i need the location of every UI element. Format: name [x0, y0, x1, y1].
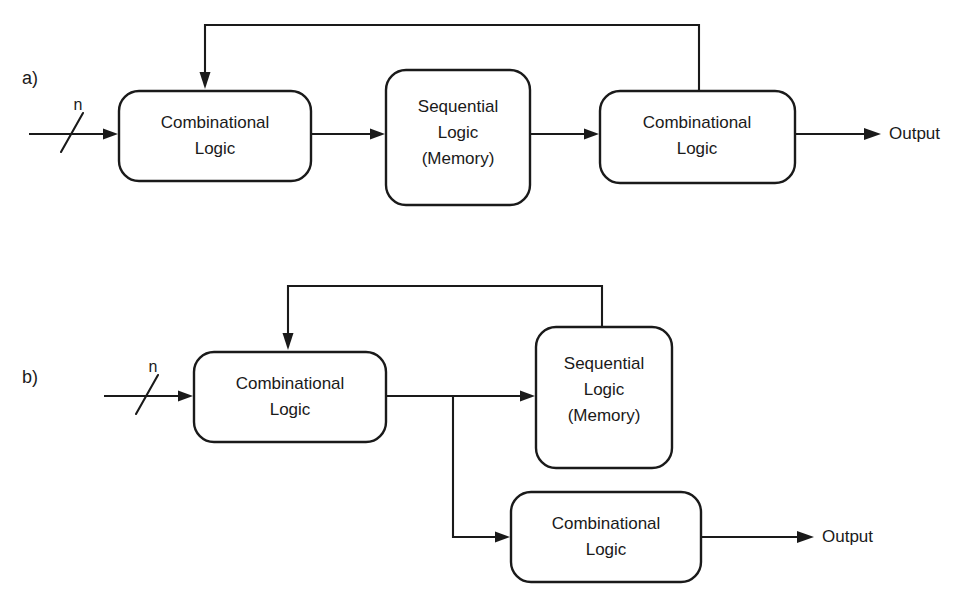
panel-a-comb2-input-arrowhead — [584, 129, 599, 140]
block-b-combinational-logic-1-line1: Combinational — [236, 374, 345, 393]
panel-a-label: a) — [22, 68, 38, 88]
block-a-combinational-logic-2-line2: Logic — [677, 139, 718, 158]
block-a-combinational-logic-1 — [119, 91, 311, 181]
block-a-combinational-logic-1-line1: Combinational — [161, 113, 270, 132]
panel-a-seq-input-arrowhead — [370, 129, 385, 140]
panel-b-input-bus-label: n — [149, 358, 158, 375]
block-b-sequential-logic-line2: Logic — [584, 380, 625, 399]
panel-a: a) n Combinational Logic Sequential Logi… — [22, 25, 940, 205]
panel-a-input-bus-slash — [61, 113, 83, 152]
panel-b-output-label: Output — [822, 527, 873, 546]
block-b-combinational-logic-1 — [194, 352, 386, 442]
panel-a-input-arrowhead — [103, 129, 118, 140]
block-diagram-figure: a) n Combinational Logic Sequential Logi… — [0, 0, 968, 603]
panel-b-output-arrowhead — [797, 531, 814, 543]
block-a-combinational-logic-2-line1: Combinational — [643, 113, 752, 132]
block-a-combinational-logic-2 — [600, 91, 795, 183]
block-b-sequential-logic-line3: (Memory) — [568, 406, 641, 425]
panel-b-comb2-input-arrowhead — [495, 532, 510, 543]
panel-a-feedback-arrowhead — [200, 72, 211, 89]
block-b-combinational-logic-2-line2: Logic — [586, 540, 627, 559]
block-b-combinational-logic-2-line1: Combinational — [552, 514, 661, 533]
panel-b-feedback-arrowhead — [283, 333, 294, 350]
block-a-sequential-logic-line3: (Memory) — [422, 149, 495, 168]
panel-b: b) n Combinational Logic Sequential Logi… — [22, 286, 873, 582]
block-a-sequential-logic-line1: Sequential — [418, 97, 498, 116]
diagram-canvas: a) n Combinational Logic Sequential Logi… — [0, 0, 968, 603]
block-b-combinational-logic-1-line2: Logic — [270, 400, 311, 419]
panel-b-label: b) — [22, 367, 38, 387]
block-b-combinational-logic-2 — [511, 492, 701, 582]
panel-a-input-bus-label: n — [74, 96, 83, 113]
panel-b-input-bus-slash — [136, 375, 158, 414]
panel-a-output-arrowhead — [864, 128, 881, 140]
panel-b-input-arrowhead — [178, 391, 193, 402]
block-a-sequential-logic-line2: Logic — [438, 123, 479, 142]
panel-b-seq-input-arrowhead — [520, 391, 535, 402]
panel-b-branch-wire — [453, 396, 503, 537]
block-b-sequential-logic-line1: Sequential — [564, 354, 644, 373]
panel-a-output-label: Output — [889, 124, 940, 143]
block-a-combinational-logic-1-line2: Logic — [195, 139, 236, 158]
